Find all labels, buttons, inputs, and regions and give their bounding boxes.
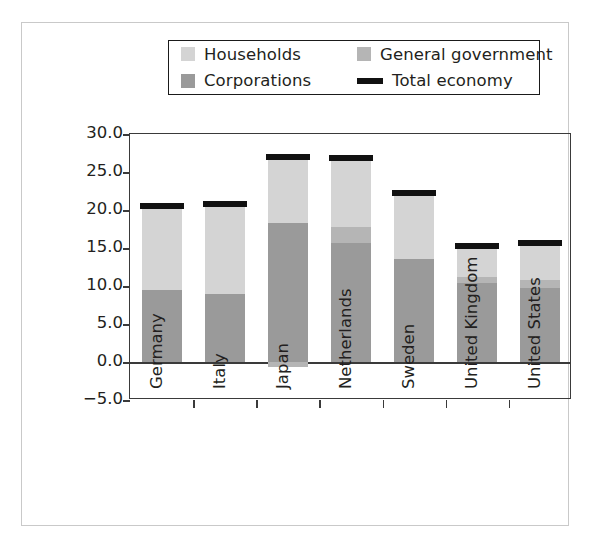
x-axis-tick xyxy=(193,400,194,408)
y-axis-tick xyxy=(123,248,130,250)
y-axis-tick-label: 15.0 xyxy=(61,237,123,256)
legend-item-total-economy[interactable]: Total economy xyxy=(357,71,553,90)
y-axis-tick-label: −5.0 xyxy=(61,389,123,408)
bar-segment[interactable] xyxy=(331,158,371,226)
y-axis-tick xyxy=(123,134,130,136)
total-economy-marker xyxy=(518,240,562,246)
total-economy-marker xyxy=(392,190,436,196)
total-economy-marker xyxy=(203,201,247,207)
legend-swatch-general-government xyxy=(357,47,371,61)
x-axis-label: United Kingdom xyxy=(462,257,481,389)
y-axis-tick-label: 20.0 xyxy=(61,199,123,218)
legend-label-households: Households xyxy=(204,45,301,64)
legend-label-total-economy: Total economy xyxy=(392,71,513,90)
y-axis-tick xyxy=(123,286,130,288)
total-economy-marker xyxy=(266,154,310,160)
legend-item-households[interactable]: Households xyxy=(181,45,357,64)
y-axis-tick xyxy=(123,400,130,402)
chart-frame: Households General government Corporatio… xyxy=(21,22,569,526)
x-axis-label: Italy xyxy=(210,353,229,389)
x-axis-label: Netherlands xyxy=(336,288,355,389)
legend-item-corporations[interactable]: Corporations xyxy=(181,71,357,90)
x-axis-tick xyxy=(383,400,384,408)
y-axis-tick xyxy=(123,172,130,174)
x-axis-tick xyxy=(509,400,510,408)
bar-segment[interactable] xyxy=(268,223,308,362)
y-axis-tick-label: 30.0 xyxy=(61,123,123,142)
x-axis-label: Germany xyxy=(147,313,166,389)
legend-swatch-corporations xyxy=(181,74,195,88)
x-axis-tick xyxy=(319,400,320,408)
y-axis-tick-label: 5.0 xyxy=(61,313,123,332)
legend-swatch-households xyxy=(181,47,195,61)
y-axis-tick-label: 25.0 xyxy=(61,161,123,180)
y-axis-tick-label: 0.0 xyxy=(61,351,123,370)
y-axis-tick xyxy=(123,362,130,364)
bar-segment[interactable] xyxy=(142,208,182,289)
legend-item-general-government[interactable]: General government xyxy=(357,45,553,64)
x-axis-tick xyxy=(256,400,257,408)
legend-label-general-government: General government xyxy=(380,45,553,64)
total-economy-marker xyxy=(140,203,184,209)
total-economy-marker xyxy=(329,155,373,161)
bar-segment[interactable] xyxy=(331,227,371,244)
y-axis-tick xyxy=(123,324,130,326)
bar-segment[interactable] xyxy=(394,195,434,260)
bar-segment[interactable] xyxy=(205,294,245,362)
x-axis-tick xyxy=(446,400,447,408)
total-economy-marker xyxy=(455,243,499,249)
bar-segment[interactable] xyxy=(520,244,560,280)
y-axis-labels: 30.025.020.015.010.05.00.0−5.0 xyxy=(53,133,123,399)
bar-segment[interactable] xyxy=(205,205,245,293)
legend-swatch-total-economy xyxy=(357,78,383,84)
y-axis-tick-label: 10.0 xyxy=(61,275,123,294)
x-axis-label: Sweden xyxy=(399,324,418,389)
bar-segment[interactable] xyxy=(268,158,308,223)
x-axis-label: United States xyxy=(525,277,544,389)
chart-legend: Households General government Corporatio… xyxy=(168,40,540,95)
x-axis-label: Japan xyxy=(273,343,292,389)
legend-label-corporations: Corporations xyxy=(204,71,311,90)
y-axis-tick xyxy=(123,210,130,212)
